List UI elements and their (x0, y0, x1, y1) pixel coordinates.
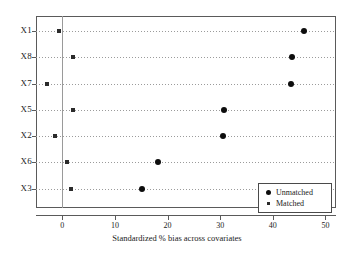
x-tick-label-40: 40 (260, 221, 286, 230)
y-axis-label-x1: X1 (2, 25, 32, 35)
data-point-unmatched-x7 (288, 81, 294, 87)
y-axis-label-x6: X6 (2, 156, 32, 166)
legend-label-unmatched: Unmatched (276, 188, 313, 197)
x-tick-0 (62, 215, 63, 220)
data-point-matched-x1 (57, 29, 61, 33)
y-tick-x2 (32, 136, 36, 137)
data-point-matched-x7 (45, 82, 49, 86)
x-tick-50 (325, 215, 326, 220)
gridline-x1 (36, 31, 336, 32)
x-tick-label-20: 20 (155, 221, 181, 230)
data-point-matched-x6 (65, 160, 69, 164)
legend: Unmatched Matched (258, 183, 332, 213)
y-axis-label-x7: X7 (2, 78, 32, 88)
y-axis-label-x2: X2 (2, 130, 32, 140)
small-square-icon (263, 202, 273, 205)
x-tick-label-0: 0 (49, 221, 75, 230)
x-tick-10 (115, 215, 116, 220)
x-tick-label-10: 10 (102, 221, 128, 230)
gridline-x2 (36, 136, 336, 137)
zero-reference-line (62, 16, 63, 208)
y-axis-label-x5: X5 (2, 104, 32, 114)
y-tick-x5 (32, 110, 36, 111)
data-point-matched-x3 (69, 187, 73, 191)
x-axis-line (36, 215, 336, 216)
love-plot-figure: X1X8X7X5X2X6X3 01020304050 Standardized … (0, 0, 354, 263)
y-axis-label-x8: X8 (2, 51, 32, 61)
x-tick-20 (168, 215, 169, 220)
data-point-matched-x8 (71, 55, 75, 59)
data-point-matched-x5 (71, 108, 75, 112)
x-tick-label-30: 30 (207, 221, 233, 230)
x-tick-30 (220, 215, 221, 220)
y-tick-x1 (32, 31, 36, 32)
legend-item-unmatched: Unmatched (263, 187, 327, 198)
x-axis-title: Standardized % bias across covariates (0, 233, 354, 243)
gridline-x5 (36, 110, 336, 111)
x-tick-40 (273, 215, 274, 220)
y-tick-x8 (32, 57, 36, 58)
legend-item-matched: Matched (263, 198, 327, 209)
x-tick-label-50: 50 (312, 221, 338, 230)
y-axis-label-x3: X3 (2, 183, 32, 193)
y-tick-x3 (32, 189, 36, 190)
legend-label-matched: Matched (276, 199, 304, 208)
data-point-unmatched-x3 (139, 186, 145, 192)
filled-circle-icon (263, 190, 273, 195)
y-tick-x6 (32, 162, 36, 163)
gridline-x6 (36, 162, 336, 163)
plot-area (36, 16, 336, 208)
y-tick-x7 (32, 84, 36, 85)
data-point-matched-x2 (53, 134, 57, 138)
